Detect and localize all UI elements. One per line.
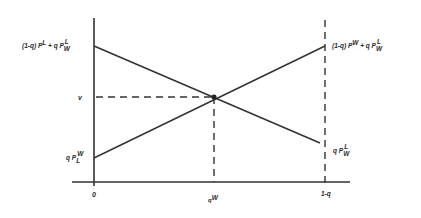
label-right-bottom: q PLW: [333, 145, 350, 157]
x-label-qW: qW: [208, 197, 218, 204]
label-text: v: [78, 94, 82, 101]
diagram-canvas: [0, 0, 421, 218]
label-stack: WL: [76, 152, 83, 164]
label-sup: W: [352, 40, 358, 47]
label-text: (1-q) P: [22, 42, 42, 49]
label-sub: W: [376, 46, 382, 53]
label-sub: W: [64, 46, 70, 53]
label-sup: L: [42, 40, 46, 47]
label-left-bottom: q PWL: [66, 152, 83, 164]
intersection-point: [211, 94, 216, 99]
label-right-top: (1-q) PW + q PLW: [332, 40, 383, 52]
x-label-origin: 0: [92, 191, 96, 198]
label-stack: LW: [376, 40, 383, 52]
label-text: 1-q: [321, 190, 331, 197]
label-left-top: (1-q) PL + q PLW: [22, 40, 71, 52]
label-stack: LW: [343, 145, 350, 157]
label-sub: L: [76, 158, 80, 165]
descending-line: [94, 46, 320, 143]
label-text: (1-q) P: [332, 42, 352, 49]
label-text: q P: [66, 154, 76, 161]
label-text: + q P: [360, 42, 376, 49]
label-text: q P: [333, 147, 343, 154]
label-sub: W: [343, 151, 349, 158]
label-text: + q P: [48, 42, 64, 49]
label-text: 0: [92, 191, 96, 198]
label-v: v: [78, 94, 82, 101]
label-stack: LW: [64, 40, 71, 52]
label-sup: W: [212, 195, 218, 202]
x-label-1-q: 1-q: [321, 191, 331, 198]
ascending-line: [94, 46, 325, 158]
